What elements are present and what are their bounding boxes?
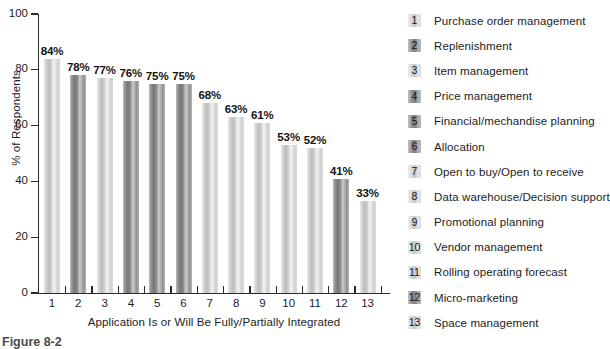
legend-item: 8Data warehouse/Decision support <box>408 184 608 209</box>
x-axis-tick <box>354 286 355 293</box>
legend-swatch: 4 <box>408 90 421 103</box>
legend-item-label: Purchase order management <box>434 15 585 27</box>
legend-item-number: 13 <box>407 316 422 329</box>
legend-item-number: 11 <box>407 266 422 279</box>
bar-value-label: 84% <box>41 45 64 57</box>
x-axis-tick-label: 2 <box>65 297 91 309</box>
bar: 33% <box>360 201 376 293</box>
bar-value-label: 33% <box>356 187 379 199</box>
x-axis-tick-label: 12 <box>328 297 354 309</box>
legend-swatch: 10 <box>408 241 421 254</box>
bar-chart: 020406080100 % of Respondents 84%78%77%7… <box>0 0 400 348</box>
bar: 75% <box>149 84 165 293</box>
legend-swatch: 13 <box>408 316 421 329</box>
y-axis-tick <box>31 237 38 238</box>
legend-item: 12Micro-marketing <box>408 285 608 310</box>
bar: 53% <box>281 145 297 293</box>
bar-value-label: 61% <box>251 109 274 121</box>
bar-value-label: 41% <box>330 165 353 177</box>
legend-item-number: 3 <box>407 64 422 77</box>
x-axis-title: Application Is or Will Be Fully/Partiall… <box>38 316 390 328</box>
y-axis-tick <box>31 13 38 14</box>
x-axis-tick-label: 8 <box>223 297 249 309</box>
bar: 78% <box>70 75 86 293</box>
legend-item: 3Item management <box>408 58 608 83</box>
legend-item: 5Financial/mechandise planning <box>408 109 608 134</box>
legend-item: 10Vendor management <box>408 235 608 260</box>
legend-item-label: Financial/mechandise planning <box>434 115 595 127</box>
y-axis-tick <box>31 69 38 70</box>
legend-swatch: 9 <box>408 216 421 229</box>
bar-value-label: 76% <box>120 67 143 79</box>
bar-value-label: 52% <box>304 134 327 146</box>
x-axis-tick-label: 6 <box>171 297 197 309</box>
x-axis-tick-label: 10 <box>276 297 302 309</box>
x-axis-tick <box>302 286 303 293</box>
x-axis-tick-label: 9 <box>249 297 275 309</box>
legend-item-number: 10 <box>407 241 422 254</box>
y-axis-tick-label: 0 <box>0 286 28 298</box>
legend-item-label: Price management <box>434 90 532 102</box>
legend-item-number: 9 <box>407 216 422 229</box>
bar: 41% <box>333 179 349 293</box>
y-axis-tick <box>31 292 38 293</box>
x-axis-tick-label: 11 <box>302 297 328 309</box>
x-axis-tick <box>144 286 145 293</box>
bar: 61% <box>254 123 270 293</box>
legend-item: 1Purchase order management <box>408 8 608 33</box>
bar: 84% <box>44 59 60 293</box>
x-axis-tick-label: 7 <box>197 297 223 309</box>
legend-item: 2Replenishment <box>408 33 608 58</box>
legend-item-label: Allocation <box>434 141 485 153</box>
legend-item: 13Space management <box>408 310 608 335</box>
legend-item-number: 7 <box>407 165 422 178</box>
x-axis-line <box>38 293 390 294</box>
legend-item-label: Open to buy/Open to receive <box>434 166 584 178</box>
legend-item-label: Data warehouse/Decision support <box>434 191 610 203</box>
bar-value-label: 68% <box>198 89 221 101</box>
bar-value-label: 63% <box>225 103 248 115</box>
bar: 68% <box>202 103 218 293</box>
legend-item-number: 5 <box>407 115 422 128</box>
chart-legend: 1Purchase order management2Replenishment… <box>408 8 608 335</box>
legend-item-label: Rolling operating forecast <box>434 266 567 278</box>
legend-item-number: 4 <box>407 90 422 103</box>
legend-item-number: 1 <box>407 14 422 27</box>
x-axis-tick-label: 4 <box>118 297 144 309</box>
x-axis-tick <box>276 286 277 293</box>
x-axis-tick <box>170 286 171 293</box>
legend-swatch: 8 <box>408 190 421 203</box>
x-axis-tick <box>118 286 119 293</box>
y-axis-tick <box>31 181 38 182</box>
y-axis-tick <box>31 125 38 126</box>
legend-item-label: Replenishment <box>434 40 512 52</box>
x-axis-tick-label: 5 <box>144 297 170 309</box>
legend-item-label: Promotional planning <box>434 216 544 228</box>
legend-swatch: 5 <box>408 115 421 128</box>
x-axis-tick <box>328 286 329 293</box>
bar-value-label: 53% <box>277 131 300 143</box>
y-axis-tick-label: 100 <box>0 7 28 19</box>
legend-item: 9Promotional planning <box>408 210 608 235</box>
legend-swatch: 3 <box>408 64 421 77</box>
legend-item-number: 2 <box>407 39 422 52</box>
legend-item-label: Vendor management <box>434 241 542 253</box>
legend-item-label: Space management <box>434 317 539 329</box>
bar-value-label: 78% <box>67 61 90 73</box>
legend-item: 6Allocation <box>408 134 608 159</box>
x-axis-tick <box>381 286 382 293</box>
y-axis-line <box>38 14 39 294</box>
bar: 75% <box>176 84 192 293</box>
bar: 63% <box>228 117 244 293</box>
legend-swatch: 7 <box>408 165 421 178</box>
legend-item-label: Item management <box>434 65 528 77</box>
legend-swatch: 12 <box>408 291 421 304</box>
legend-item: 11Rolling operating forecast <box>408 260 608 285</box>
legend-item: 4Price management <box>408 84 608 109</box>
x-axis-tick <box>65 286 66 293</box>
bar-value-label: 75% <box>146 70 169 82</box>
legend-swatch: 6 <box>408 140 421 153</box>
legend-item: 7Open to buy/Open to receive <box>408 159 608 184</box>
legend-item-number: 8 <box>407 190 422 203</box>
legend-item-label: Micro-marketing <box>434 292 518 304</box>
